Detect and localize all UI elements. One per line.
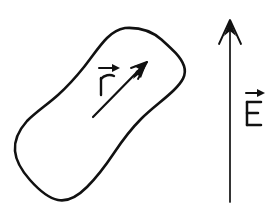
diagram-svg bbox=[0, 0, 274, 210]
e-field-vector-arrow bbox=[219, 20, 241, 202]
blob-outline bbox=[15, 28, 185, 201]
r-vector-label bbox=[99, 64, 120, 95]
r-vector-label-text: r bbox=[100, 76, 101, 77]
e-vector-label bbox=[246, 89, 265, 125]
figure-canvas: r E bbox=[0, 0, 274, 210]
e-vector-label-text: E bbox=[246, 100, 247, 101]
